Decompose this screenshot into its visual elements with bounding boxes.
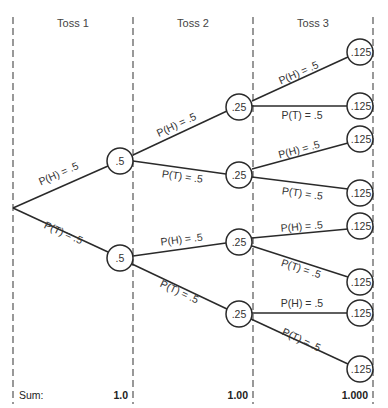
node-label: .125 — [351, 100, 372, 112]
node-label: .25 — [232, 308, 247, 320]
node-label: .125 — [351, 363, 372, 375]
edge-label-toss3: P(T) = .5 — [281, 109, 322, 121]
sum-toss-1: 1.0 — [113, 389, 128, 401]
edge-label-toss2: P(H) = .5 — [160, 230, 204, 247]
node-label: .125 — [351, 46, 372, 58]
header-toss-3: Toss 3 — [297, 17, 329, 29]
sum-toss-2: 1.00 — [228, 389, 249, 401]
sum-toss-3: 1.000 — [342, 389, 368, 401]
node-label: .25 — [232, 101, 247, 113]
header-toss-1: Toss 1 — [57, 17, 89, 29]
node-label: .125 — [351, 276, 372, 288]
header-toss-2: Toss 2 — [177, 17, 209, 29]
node-label: .125 — [351, 133, 372, 145]
node-label: .125 — [351, 307, 372, 319]
sum-label: Sum: — [19, 389, 44, 401]
edge-label-toss1-heads: P(H) = .5 — [37, 159, 81, 187]
node-label: .125 — [351, 220, 372, 232]
edge-label-toss3: P(T) = .5 — [281, 325, 323, 353]
edge-label-toss2: P(T) = .5 — [159, 277, 201, 305]
node-label: .25 — [232, 169, 247, 181]
tree-edges — [13, 57, 348, 364]
edge-label-toss3: P(H) = .5 — [281, 297, 323, 309]
node-label: .25 — [232, 236, 247, 248]
node-label: .125 — [351, 187, 372, 199]
probability-tree-diagram: Toss 1 Toss 2 Toss 3 P(H) = .5 P(T) = .5… — [0, 0, 388, 408]
node-label: .5 — [116, 155, 125, 167]
node-label: .5 — [116, 252, 125, 264]
edge-label-toss1-tails: P(T) = .5 — [42, 218, 85, 246]
edge-label-toss3: P(T) = .5 — [280, 256, 323, 280]
edge-label-toss3: P(T) = .5 — [281, 184, 324, 202]
